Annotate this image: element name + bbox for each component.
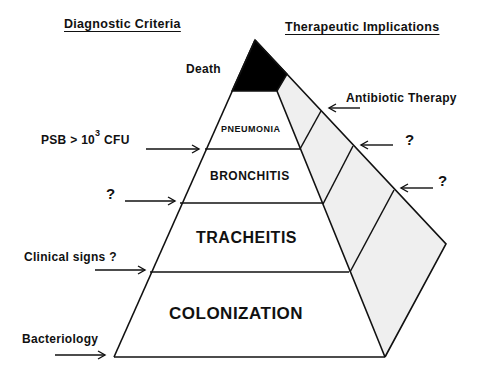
pyramid-diagram xyxy=(0,0,491,382)
criterion-psb-unit: CFU xyxy=(100,133,129,147)
arrow-psb xyxy=(146,145,199,153)
level-label-death: Death xyxy=(186,62,221,76)
arrow-antibiotic xyxy=(329,104,360,112)
therapy-question-2: ? xyxy=(438,172,447,189)
arrow-clinical-signs xyxy=(95,266,145,274)
criterion-bacteriology: Bacteriology xyxy=(22,332,98,346)
criterion-psb-exponent: 3 xyxy=(95,128,100,138)
level-label-pneumonia: PNEUMONIA xyxy=(221,124,281,134)
arrow-bacteriology xyxy=(55,351,105,359)
criterion-psb: PSB > 103 CFU xyxy=(41,131,130,147)
criterion-question: ? xyxy=(106,185,115,202)
arrow-question-left xyxy=(125,197,175,205)
criterion-psb-main: PSB > 10 xyxy=(41,133,95,147)
criterion-clinical-signs: Clinical signs ? xyxy=(24,250,117,264)
level-label-colonization: COLONIZATION xyxy=(169,304,303,324)
arrow-question-right-1 xyxy=(361,141,393,149)
level-label-bronchitis: BRONCHITIS xyxy=(210,169,290,183)
therapy-antibiotic: Antibiotic Therapy xyxy=(346,91,457,105)
header-diagnostic-criteria: Diagnostic Criteria xyxy=(64,17,181,31)
header-therapeutic-implications: Therapeutic Implications xyxy=(285,20,439,34)
level-label-tracheitis: TRACHEITIS xyxy=(196,229,297,247)
therapy-question-1: ? xyxy=(405,131,414,148)
arrow-question-right-2 xyxy=(401,184,433,192)
